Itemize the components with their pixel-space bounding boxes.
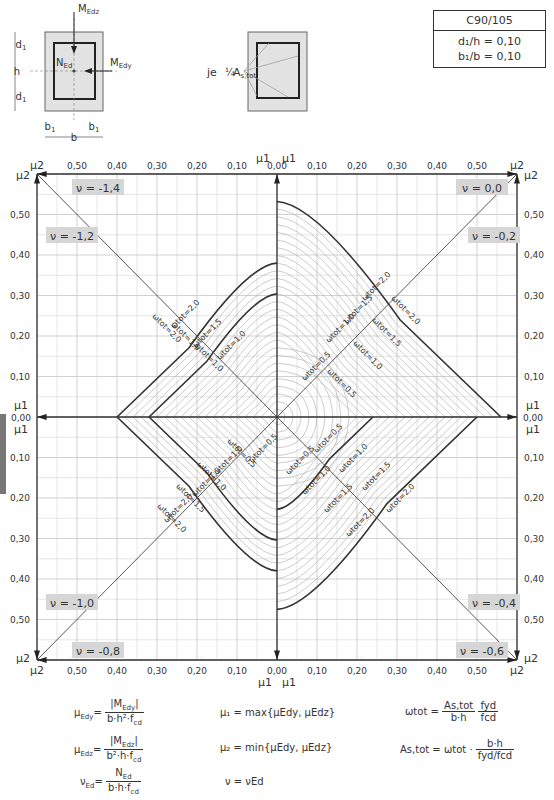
- tick-label: 0,20: [524, 331, 544, 341]
- centroid-point: [72, 69, 75, 72]
- nu-label-text: ν = -1,4: [76, 182, 120, 195]
- hatch-line: [277, 217, 485, 417]
- omega-label: ωtot=0,5: [247, 432, 280, 465]
- tick-label: 0,20: [347, 161, 367, 171]
- tick-label: 0,40: [10, 574, 30, 584]
- tick-label: 0,50: [67, 161, 87, 171]
- tick-label: 0,40: [524, 574, 544, 584]
- tick-label: 0,30: [524, 534, 544, 544]
- tick-label: 0,50: [10, 615, 30, 625]
- omega-label-text: ωtot=2,0: [344, 506, 377, 539]
- axis-end-label: μ2: [524, 652, 538, 665]
- tick-label: 0,40: [427, 666, 447, 676]
- tick-label: 0,10: [307, 161, 327, 171]
- axis-end-label: μ1: [282, 152, 296, 165]
- tick-label: 0,40: [427, 161, 447, 171]
- nu-label: ν = -0,2: [468, 227, 520, 243]
- hatch-line: [277, 417, 453, 586]
- tick-label: 0,20: [347, 666, 367, 676]
- axis-end-label: μ1: [14, 423, 28, 436]
- tick-label: 0,00: [11, 413, 31, 423]
- formula-mu2-def: μ₂ = min{μEdy, μEdz}: [220, 742, 332, 753]
- tick-label: 0,10: [10, 372, 30, 382]
- label-medz: MEdz: [78, 3, 100, 16]
- tick-label: 0,40: [524, 250, 544, 260]
- tick-label: 0,30: [387, 666, 407, 676]
- section-sketch: MEdzMEdyNEdhd1d1b1b1b: [14, 3, 132, 143]
- tick-label: 0,30: [10, 291, 30, 301]
- axis-end-label: μ2: [510, 159, 524, 172]
- nu-label: ν = -1,4: [72, 179, 124, 195]
- arrow-up-icon: [274, 174, 280, 184]
- tick-label: 0,50: [67, 666, 87, 676]
- omega-label: ωtot=2,0: [344, 506, 377, 539]
- nu-label-text: ν = -1,0: [50, 597, 94, 610]
- tick-label: 0,20: [187, 161, 207, 171]
- axis-end-label: μ1: [282, 676, 296, 689]
- tick-label: 0,40: [107, 161, 127, 171]
- tick-label: 0,40: [10, 250, 30, 260]
- label-medy: MEdy: [110, 57, 132, 70]
- tick-label: 0,50: [524, 615, 544, 625]
- omega-label: ωtot=1,0: [351, 339, 384, 372]
- contour-group: [277, 202, 501, 417]
- tick-label: 0,10: [10, 453, 30, 463]
- nu-label: ν = -0,6: [456, 642, 508, 658]
- nu-label-text: ν = -1,2: [50, 230, 94, 243]
- tick-label: 0,50: [10, 210, 30, 220]
- label-d1: d1: [16, 91, 27, 104]
- axis-end-label: μ1: [14, 399, 28, 412]
- axis-end-label: μ1: [526, 399, 540, 412]
- omega-label: ωtot=2,0: [360, 270, 393, 303]
- nu-label-text: ν = -0,4: [472, 597, 516, 610]
- arrow-right-icon: [507, 657, 517, 663]
- omega-label-text: ωtot=2,0: [360, 270, 393, 303]
- tick-label: 0,10: [227, 161, 247, 171]
- tick-label: 0,20: [10, 331, 30, 341]
- formula-nu-def: ν = νEd: [225, 776, 264, 787]
- tick-label: 0,10: [524, 372, 544, 382]
- tick-label: 0,50: [467, 666, 487, 676]
- omega-contour-bold: [277, 202, 501, 417]
- label-b1: b1: [45, 121, 56, 134]
- nu-label: ν = -0,4: [468, 594, 520, 610]
- nu-label-text: ν = 0,0: [462, 182, 502, 195]
- interaction-diagram: 0,000,000,000,000,100,100,100,100,100,10…: [0, 0, 554, 800]
- arrow-left-icon: [37, 414, 47, 420]
- hatch-line: [277, 417, 405, 540]
- nu-label: ν = 0,0: [456, 179, 508, 195]
- tick-label: 0,10: [227, 666, 247, 676]
- reinforcement-sketch: je¼As,tot: [206, 32, 307, 111]
- axis-end-label: μ2: [16, 652, 30, 665]
- tick-label: 0,40: [107, 666, 127, 676]
- axis-end-label: μ1: [258, 676, 272, 689]
- arrow-right-icon: [507, 414, 517, 420]
- tick-label: 0,30: [10, 534, 30, 544]
- axis-end-label: μ2: [16, 169, 30, 182]
- tick-label: 0,20: [187, 666, 207, 676]
- label-d1: d1: [16, 39, 27, 52]
- formula-as-tot: As,tot = ωtot · b·hfyd/fcd: [400, 738, 514, 761]
- arrow-up-icon: [34, 174, 40, 184]
- tick-label: 0,00: [523, 413, 543, 423]
- formula-mu-edy: μEdy= |MEdy|b·h²·fcd: [74, 698, 144, 727]
- nu-label: ν = -1,0: [46, 594, 98, 610]
- arrow-down-icon: [514, 650, 520, 660]
- hatch-line: [277, 294, 405, 417]
- arrow-left-icon: [37, 657, 47, 663]
- tick-label: 0,50: [467, 161, 487, 171]
- axis-end-label: μ2: [30, 664, 44, 677]
- arrow-down-icon: [34, 650, 40, 660]
- arrow-down-icon: [274, 650, 280, 660]
- tick-label: 0,00: [267, 666, 287, 676]
- axis-end-label: μ2: [510, 664, 524, 677]
- formula-mu1-def: μ₁ = max{μEdy, μEdz}: [220, 707, 335, 718]
- tick-label: 0,30: [147, 161, 167, 171]
- tick-label: 0,20: [524, 493, 544, 503]
- label-je: je: [206, 66, 217, 79]
- formula-nu-ed: νEd= NEdb·h·fcd: [80, 767, 141, 796]
- axis-end-label: μ2: [524, 169, 538, 182]
- arrow-up-icon: [514, 174, 520, 184]
- label-b: b: [71, 132, 77, 143]
- axis-end-label: μ2: [30, 159, 44, 172]
